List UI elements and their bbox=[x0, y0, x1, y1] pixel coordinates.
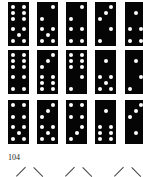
pip bbox=[98, 131, 102, 135]
pip bbox=[22, 65, 26, 69]
domino-half-top bbox=[125, 100, 143, 122]
pip bbox=[75, 131, 79, 135]
domino-half-bottom bbox=[37, 24, 58, 46]
pip bbox=[11, 11, 15, 15]
pip bbox=[51, 39, 55, 43]
diagonal-line bbox=[131, 167, 141, 177]
pip bbox=[80, 125, 84, 129]
pip bbox=[22, 59, 26, 63]
pip bbox=[109, 125, 113, 129]
domino bbox=[66, 2, 87, 46]
domino-half-top bbox=[95, 100, 116, 122]
pip bbox=[22, 27, 26, 31]
domino bbox=[95, 2, 116, 46]
pip bbox=[134, 131, 138, 135]
pip bbox=[11, 65, 15, 69]
pip bbox=[104, 59, 108, 63]
domino-half-top bbox=[66, 100, 87, 122]
pip bbox=[51, 5, 55, 9]
pip bbox=[51, 125, 55, 129]
pip bbox=[46, 109, 50, 113]
domino-half-bottom bbox=[8, 24, 29, 46]
pip bbox=[80, 103, 84, 107]
pip bbox=[11, 125, 15, 129]
domino bbox=[95, 50, 116, 94]
domino-half-top bbox=[95, 50, 116, 72]
pip bbox=[46, 59, 50, 63]
pip bbox=[139, 103, 143, 107]
pip bbox=[11, 103, 15, 107]
pip bbox=[51, 27, 55, 31]
pip bbox=[11, 137, 15, 141]
pip bbox=[22, 103, 26, 107]
domino-half-top bbox=[95, 2, 116, 24]
pip bbox=[139, 75, 143, 79]
pip bbox=[11, 115, 15, 119]
pip bbox=[40, 65, 44, 69]
domino-half-bottom bbox=[37, 72, 58, 94]
diagonal-line bbox=[33, 167, 43, 177]
pip bbox=[134, 11, 138, 15]
pip bbox=[80, 39, 84, 43]
domino-half-top bbox=[37, 2, 58, 24]
pip bbox=[80, 5, 84, 9]
diagonal-line bbox=[65, 167, 75, 177]
domino-half-top bbox=[125, 50, 143, 72]
pip bbox=[139, 39, 143, 43]
pip bbox=[128, 39, 132, 43]
pip bbox=[11, 75, 15, 79]
pip bbox=[109, 131, 113, 135]
domino bbox=[8, 2, 29, 46]
domino-half-bottom bbox=[95, 24, 116, 46]
pip bbox=[98, 39, 102, 43]
domino bbox=[37, 50, 58, 94]
pip bbox=[11, 87, 15, 91]
pip bbox=[80, 59, 84, 63]
pip bbox=[80, 65, 84, 69]
pip bbox=[69, 39, 73, 43]
pip bbox=[22, 87, 26, 91]
domino bbox=[66, 50, 87, 94]
pip bbox=[98, 125, 102, 129]
domino-half-bottom bbox=[66, 72, 87, 94]
domino bbox=[125, 50, 143, 94]
pip bbox=[40, 87, 44, 91]
pip bbox=[69, 115, 73, 119]
pip bbox=[80, 75, 84, 79]
domino bbox=[95, 100, 116, 144]
domino-half-bottom bbox=[95, 122, 116, 144]
domino-half-bottom bbox=[125, 24, 143, 46]
domino-half-top bbox=[8, 50, 29, 72]
page-number: 104 bbox=[8, 153, 20, 162]
pip bbox=[51, 81, 55, 85]
pip bbox=[69, 65, 73, 69]
domino-half-bottom bbox=[125, 122, 143, 144]
domino bbox=[8, 100, 29, 144]
pip bbox=[40, 27, 44, 31]
domino-half-bottom bbox=[8, 72, 29, 94]
pip bbox=[11, 53, 15, 57]
pip bbox=[69, 17, 73, 21]
pip bbox=[22, 115, 26, 119]
pip bbox=[109, 5, 113, 9]
pip bbox=[69, 87, 73, 91]
pip bbox=[109, 87, 113, 91]
pip bbox=[22, 75, 26, 79]
diagonal-line bbox=[82, 167, 92, 177]
pip bbox=[22, 17, 26, 21]
pip bbox=[128, 27, 132, 31]
pip bbox=[11, 17, 15, 21]
pip bbox=[98, 17, 102, 21]
pip bbox=[22, 125, 26, 129]
pip bbox=[40, 75, 44, 79]
pip bbox=[80, 53, 84, 57]
pip bbox=[80, 115, 84, 119]
pip bbox=[46, 33, 50, 37]
domino-half-top bbox=[8, 100, 29, 122]
domino bbox=[8, 50, 29, 94]
pip bbox=[134, 109, 138, 113]
domino-half-top bbox=[66, 50, 87, 72]
domino-half-top bbox=[37, 100, 58, 122]
pip bbox=[51, 75, 55, 79]
domino-half-bottom bbox=[8, 122, 29, 144]
